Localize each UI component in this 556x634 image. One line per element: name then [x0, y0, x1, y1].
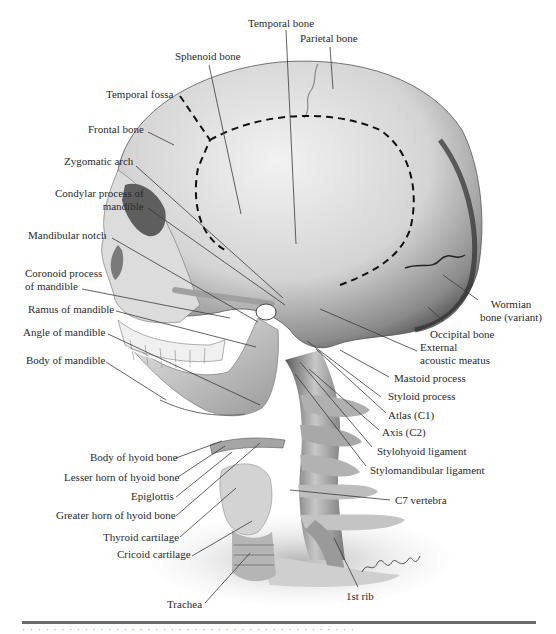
- label-mastoid-process: Mastoid process: [394, 372, 466, 385]
- label-c7-vertebra: C7 vertebra: [395, 494, 447, 507]
- label-external-acoustic-meatus: Externalacoustic meatus: [420, 341, 490, 367]
- teeth: [118, 320, 225, 368]
- label-wormian-bone: Wormianbone (variant): [480, 298, 542, 324]
- label-text-line2: acoustic meatus: [420, 354, 490, 367]
- label-occipital-bone: Occipital bone: [430, 328, 494, 341]
- label-trachea: Trachea: [167, 598, 202, 611]
- label-parietal-bone: Parietal bone: [300, 32, 358, 45]
- label-text: Temporal bone: [248, 17, 314, 30]
- label-mandibular-notch: Mandibular notch: [28, 229, 107, 242]
- label-text: Body of hyoid bone: [90, 451, 178, 464]
- leader-mastoid-process: [340, 350, 389, 377]
- label-temporal-bone: Temporal bone: [248, 17, 314, 30]
- label-epiglottis: Epiglottis: [131, 490, 174, 503]
- label-text: Stylomandibular ligament: [370, 464, 485, 477]
- label-text: Body of mandible: [26, 354, 105, 367]
- label-body-hyoid: Body of hyoid bone: [90, 451, 178, 464]
- label-text: External: [420, 341, 490, 354]
- label-frontal-bone: Frontal bone: [88, 123, 144, 136]
- ear-canal: [256, 304, 276, 320]
- mandible: [128, 318, 278, 416]
- label-text: Ramus of mandible: [28, 303, 114, 316]
- skull-illustration: [0, 0, 556, 634]
- label-text-line2: bone (variant): [480, 311, 542, 324]
- label-text: Angle of mandible: [23, 326, 105, 339]
- label-text: 1st rib: [346, 590, 374, 603]
- label-text: Trachea: [167, 598, 202, 611]
- label-text: Mastoid process: [394, 372, 466, 385]
- label-text: Axis (C2): [382, 426, 426, 439]
- label-zygomatic-arch: Zygomatic arch: [64, 155, 133, 168]
- label-atlas: Atlas (C1): [388, 409, 434, 422]
- label-text: Lesser horn of hyoid bone: [64, 471, 179, 484]
- label-stylomandibular-ligament: Stylomandibular ligament: [370, 464, 485, 477]
- label-sphenoid-bone: Sphenoid bone: [175, 50, 241, 63]
- label-lesser-horn-hyoid: Lesser horn of hyoid bone: [64, 471, 179, 484]
- caption-cropped: · · · · · · · · · · · · · · · · · · · · …: [22, 628, 536, 634]
- anatomy-figure: Temporal boneParietal boneSphenoid boneT…: [0, 0, 556, 634]
- caption-rule: [22, 621, 536, 624]
- label-text: Greater horn of hyoid bone: [56, 509, 176, 522]
- label-text: Mandibular notch: [28, 229, 107, 242]
- label-text: Temporal fossa: [106, 88, 173, 101]
- label-text: Styloid process: [388, 390, 456, 403]
- label-text: Coronoid process: [25, 267, 102, 280]
- label-text: Frontal bone: [88, 123, 144, 136]
- label-stylohyoid-ligament: Stylohyoid ligament: [377, 445, 467, 458]
- label-text: Atlas (C1): [388, 409, 434, 422]
- label-thyroid-cartilage: Thyroid cartilage: [103, 531, 179, 544]
- label-text: C7 vertebra: [395, 494, 447, 507]
- label-angle-mandible: Angle of mandible: [23, 326, 105, 339]
- label-ramus-mandible: Ramus of mandible: [28, 303, 114, 316]
- label-text: Epiglottis: [131, 490, 174, 503]
- label-coronoid-process: Coronoid processof mandible: [25, 267, 102, 293]
- label-temporal-fossa: Temporal fossa: [106, 88, 173, 101]
- label-text: Occipital bone: [430, 328, 494, 341]
- label-body-mandible: Body of mandible: [26, 354, 105, 367]
- shoulder-shading: [150, 515, 450, 605]
- label-first-rib: 1st rib: [346, 590, 374, 603]
- label-greater-horn-hyoid: Greater horn of hyoid bone: [56, 509, 176, 522]
- label-text-line2: mandible: [55, 200, 144, 213]
- label-cricoid-cartilage: Cricoid cartilage: [117, 548, 191, 561]
- label-condylar-process: Condylar process ofmandible: [55, 187, 144, 213]
- label-text: Zygomatic arch: [64, 155, 133, 168]
- label-text: Parietal bone: [300, 32, 358, 45]
- label-text: Wormian: [480, 298, 542, 311]
- label-text: Cricoid cartilage: [117, 548, 191, 561]
- leader-lesser-horn-hyoid: [178, 446, 225, 477]
- label-text: Thyroid cartilage: [103, 531, 179, 544]
- label-styloid-process: Styloid process: [388, 390, 456, 403]
- label-text: Condylar process of: [55, 187, 144, 200]
- label-text-line2: of mandible: [25, 280, 102, 293]
- label-text: Stylohyoid ligament: [377, 445, 467, 458]
- label-axis: Axis (C2): [382, 426, 426, 439]
- label-text: Sphenoid bone: [175, 50, 241, 63]
